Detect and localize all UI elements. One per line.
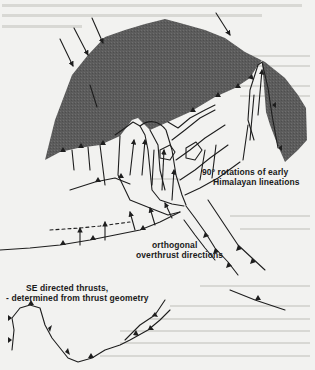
label-rotations: 90° rotations of early Himalayan lineati… xyxy=(202,167,300,187)
label-orthogonal: orthogonal overthrust directions xyxy=(143,240,223,260)
label-rotations-line2: Himalayan lineations xyxy=(202,177,300,187)
label-se-thrusts-line1: SE directed thrusts, xyxy=(6,283,149,293)
label-rotations-line1: 90° rotations of early xyxy=(202,167,300,177)
label-orthogonal-line2: overthrust directions xyxy=(136,250,223,260)
label-orthogonal-line1: orthogonal xyxy=(143,240,223,250)
label-se-thrusts-line2: - determined from thrust geometry xyxy=(6,293,149,303)
shaded-plateau-region xyxy=(45,19,307,162)
label-se-thrusts: SE directed thrusts, - determined from t… xyxy=(6,283,149,303)
